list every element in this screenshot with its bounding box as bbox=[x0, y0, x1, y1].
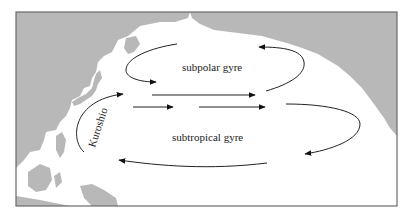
subtropical-east-arrow bbox=[286, 104, 360, 154]
asia-landmass bbox=[16, 12, 190, 168]
new-guinea bbox=[80, 184, 118, 206]
borneo bbox=[28, 164, 52, 192]
subtropical-gyre-label: subtropical gyre bbox=[172, 131, 243, 143]
pacific-gyre-map: subpolar gyre subtropical gyre Kuroshio bbox=[0, 0, 414, 218]
subpolar-gyre-label: subpolar gyre bbox=[182, 61, 242, 73]
north-america-landmass bbox=[190, 12, 397, 136]
north-equatorial-current-arrow bbox=[119, 160, 267, 167]
subpolar-east-arrow bbox=[259, 47, 304, 91]
kuroshio-label: Kuroshio bbox=[85, 105, 109, 148]
landmasses bbox=[16, 12, 397, 206]
